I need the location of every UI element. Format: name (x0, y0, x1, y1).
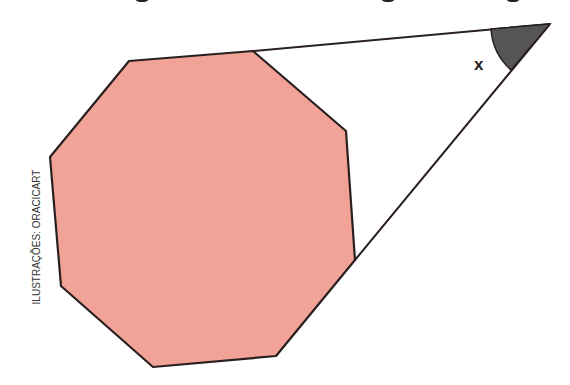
octagon-diagram (0, 0, 570, 385)
figure-canvas: x ILUSTRAÇÕES: ORACICART (0, 0, 570, 385)
octagon-shape (50, 51, 355, 367)
illustration-credit: ILUSTRAÇÕES: ORACICART (31, 170, 42, 305)
angle-x-wedge (491, 24, 550, 70)
clipped-heading-remnants (136, 0, 519, 2)
angle-label-x: x (474, 55, 483, 75)
